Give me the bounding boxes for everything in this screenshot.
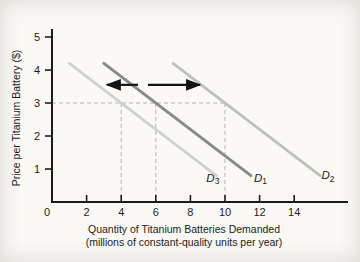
x-tick-label-14: 14: [288, 206, 300, 218]
x-tick-label-8: 8: [187, 206, 193, 218]
demand-curve-D1: [104, 63, 251, 175]
x-tick-label-0: 0: [44, 206, 50, 218]
x-tick-label-10: 10: [219, 206, 231, 218]
curve-label-sub-D3: 3: [215, 176, 220, 186]
x-tick-label-12: 12: [253, 206, 265, 218]
curve-label-D3: D3: [206, 172, 219, 187]
y-tick-label-5: 5: [34, 31, 40, 43]
curve-label-sub-D1: 1: [262, 176, 267, 186]
x-tick-label-2: 2: [84, 206, 90, 218]
curve-label-base-D3: D: [206, 172, 214, 184]
demand-chart: D3D1D20246810121412345Price per Titanium…: [0, 0, 360, 262]
curve-label-base-D2: D: [321, 169, 329, 181]
y-tick-label-2: 2: [34, 130, 40, 142]
x-tick-label-6: 6: [153, 206, 159, 218]
curve-label-D2: D2: [321, 169, 334, 184]
y-tick-label-1: 1: [34, 163, 40, 175]
x-tick-label-4: 4: [118, 206, 124, 218]
curve-label-sub-D2: 2: [330, 174, 335, 184]
x-axis-title: Quantity of Titanium Batteries Demanded: [88, 223, 280, 235]
curve-label-base-D1: D: [254, 172, 262, 184]
y-axis-title: Price per Titanium Battery ($): [10, 50, 22, 187]
y-tick-label-3: 3: [34, 97, 40, 109]
curve-label-D1: D1: [254, 172, 267, 187]
y-tick-label-4: 4: [34, 64, 40, 76]
figure-page: D3D1D20246810121412345Price per Titanium…: [0, 0, 360, 262]
x-axis-subtitle: (millions of constant-quality units per …: [86, 236, 283, 248]
